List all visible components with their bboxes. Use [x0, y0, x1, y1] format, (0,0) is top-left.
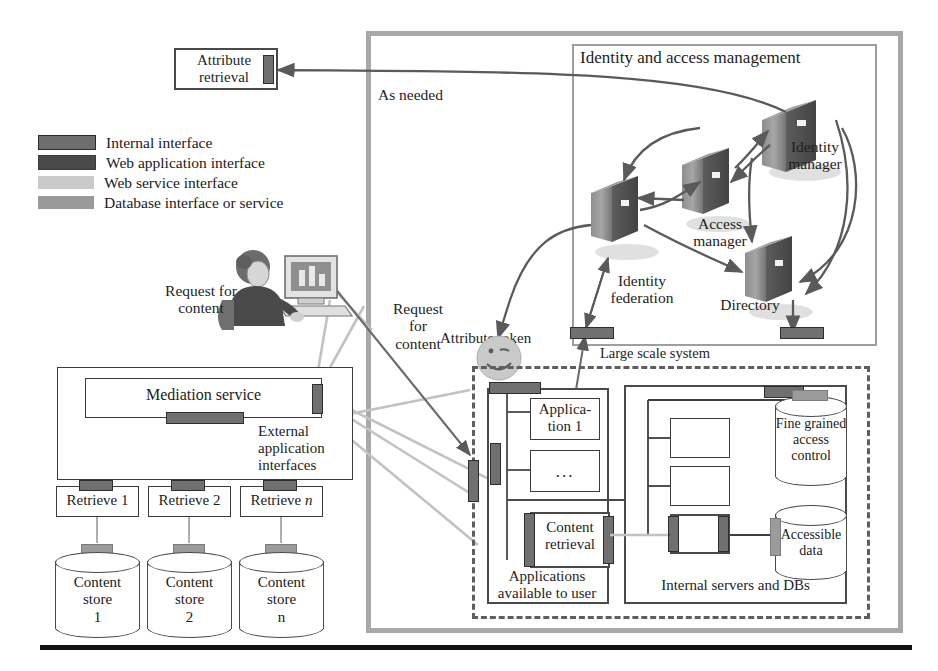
- accessible-data-label: Accessible data: [775, 527, 847, 559]
- accessible-data-cylinder: Accessible data: [775, 505, 847, 580]
- fine-grained-access-control-label: Fine grained access control: [775, 416, 847, 464]
- bottom-rule: [40, 645, 912, 650]
- fine-grained-access-control-cylinder: Fine grained access control: [775, 396, 847, 486]
- accessible-data-db-interface-bar: [770, 518, 781, 556]
- fine-grained-db-interface-bar: [792, 390, 828, 401]
